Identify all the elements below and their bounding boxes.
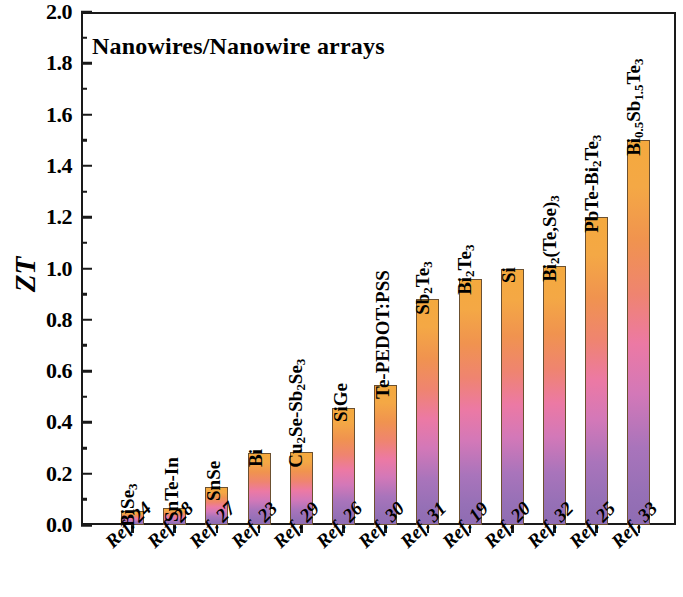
- bar-value-label: Bi: [245, 449, 267, 467]
- y-axis-tick-mark: [81, 524, 92, 527]
- bar-value-label: PbTe-Bi2Te3: [581, 135, 605, 233]
- y-axis-tick-mark: [81, 370, 92, 373]
- y-axis-minor-tick-mark: [81, 447, 87, 450]
- y-axis-tick-mark: [81, 267, 92, 270]
- y-axis-minor-tick-mark: [81, 498, 87, 501]
- y-axis-tick-mark: [81, 165, 92, 168]
- bar: [543, 266, 566, 525]
- y-axis-tick-label: 2.0: [16, 0, 72, 25]
- y-axis-tick-label: 0.0: [16, 512, 72, 538]
- y-axis-tick-mark: [81, 62, 92, 65]
- y-axis-minor-tick-mark: [81, 396, 87, 399]
- y-axis-tick-label: 1.0: [16, 256, 72, 282]
- bar-value-label: Cu2Se-Sb2Se3: [285, 359, 309, 468]
- bar-value-label: Bi0.5Sb1.5Te3: [623, 59, 647, 156]
- y-axis-minor-tick-mark: [81, 139, 87, 142]
- bar-value-label: Te-PEDOT:PSS: [372, 270, 394, 399]
- bar-value-label: SnSe: [203, 460, 225, 500]
- bar-value-label: SiGe: [330, 383, 352, 422]
- y-axis-tick-label: 0.2: [16, 461, 72, 487]
- bar-value-label: Sb2Te3: [412, 262, 436, 315]
- y-axis-tick-label: 0.8: [16, 307, 72, 333]
- y-axis-tick-mark: [81, 11, 92, 14]
- y-axis-tick-label: 0.6: [16, 358, 72, 384]
- y-axis-minor-tick-mark: [81, 190, 87, 193]
- chart-title: Nanowires/Nanowire arrays: [92, 33, 385, 60]
- y-axis-minor-tick-mark: [81, 88, 87, 91]
- y-axis-minor-tick-mark: [81, 344, 87, 347]
- bar: [585, 217, 608, 525]
- bar-value-label: Bi2Te3: [454, 244, 478, 294]
- bar-value-label: Si: [498, 267, 520, 283]
- bar: [416, 299, 439, 525]
- y-axis-minor-tick-mark: [81, 293, 87, 296]
- bar-value-label: Bi2(Te,Se)3: [539, 195, 563, 282]
- y-axis-tick-label: 1.6: [16, 102, 72, 128]
- y-axis-tick-label: 0.4: [16, 409, 72, 435]
- y-axis-tick-mark: [81, 319, 92, 322]
- y-axis-tick-label: 1.4: [16, 153, 72, 179]
- y-axis-minor-tick-mark: [81, 36, 87, 39]
- y-axis-minor-tick-mark: [81, 242, 87, 245]
- y-axis-tick-mark: [81, 113, 92, 116]
- y-axis-tick-mark: [81, 216, 92, 219]
- thermoelectric-zt-bar-chart: ZT Nanowires/Nanowire arrays 2.01.81.61.…: [0, 0, 683, 597]
- y-axis-tick-mark: [81, 421, 92, 424]
- y-axis-tick-label: 1.2: [16, 204, 72, 230]
- y-axis-tick-label: 1.8: [16, 50, 72, 76]
- y-axis-tick-mark: [81, 472, 92, 475]
- bar: [627, 140, 650, 525]
- bar: [459, 279, 482, 525]
- bar: [501, 269, 524, 526]
